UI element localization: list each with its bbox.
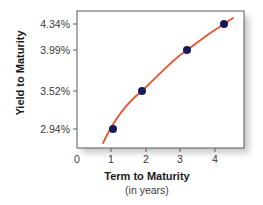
x-tick-label: 3 bbox=[177, 153, 183, 165]
x-axis-title: Term to Maturity bbox=[104, 170, 190, 182]
x-axis-subtitle: (in years) bbox=[125, 184, 169, 196]
yield-curve-chart: 4.34% 3.99% 3.52% 2.94% 0 1 2 3 4 Term t… bbox=[0, 0, 263, 205]
x-tick-label: 1 bbox=[108, 153, 114, 165]
y-tick-label: 4.34% bbox=[40, 18, 70, 30]
data-point bbox=[220, 20, 228, 28]
y-tick-label: 2.94% bbox=[40, 123, 70, 135]
data-point bbox=[109, 125, 117, 133]
y-tick-label: 3.99% bbox=[40, 44, 70, 56]
y-tick-label: 3.52% bbox=[40, 85, 70, 97]
data-point bbox=[183, 46, 191, 54]
x-tick-label: 0 bbox=[74, 153, 80, 165]
y-axis: 4.34% 3.99% 3.52% 2.94% bbox=[40, 18, 77, 135]
y-axis-title: Yield to Maturity bbox=[14, 30, 26, 116]
x-tick-label: 4 bbox=[212, 153, 218, 165]
x-tick-label: 2 bbox=[143, 153, 149, 165]
data-point bbox=[138, 87, 146, 95]
plot-area bbox=[77, 11, 244, 148]
